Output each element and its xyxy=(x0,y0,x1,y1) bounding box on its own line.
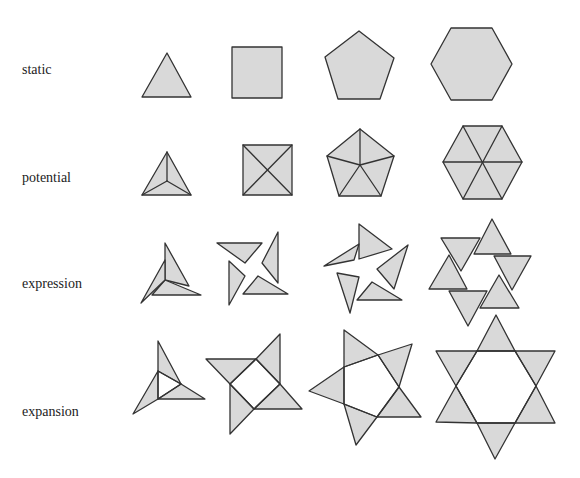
polygon-piece xyxy=(141,260,165,303)
polygon-piece xyxy=(230,384,254,434)
potential-square-shape xyxy=(243,145,292,195)
polygon-piece xyxy=(477,423,515,459)
polygon-piece xyxy=(377,387,421,417)
polygon-piece xyxy=(206,359,256,384)
polygon-piece xyxy=(474,219,511,254)
polygon-piece xyxy=(254,384,302,409)
polygon-piece xyxy=(309,367,344,404)
expression-pentagon-shape xyxy=(324,224,408,313)
polygon-piece xyxy=(256,334,280,384)
polygon-piece xyxy=(133,371,158,414)
expansion-hexagon-shape xyxy=(436,315,555,459)
polygon-piece xyxy=(165,243,189,286)
polygon-piece xyxy=(477,315,515,351)
polygon-piece xyxy=(436,351,477,386)
polygon-piece xyxy=(515,386,555,423)
expression-square-shape xyxy=(217,232,288,305)
polygon-piece xyxy=(232,47,282,98)
polygon-piece xyxy=(217,243,262,263)
row-label-expansion: expansion xyxy=(22,404,79,420)
expansion-pentagon-shape xyxy=(309,330,421,445)
polygon-piece xyxy=(158,384,205,399)
polygon-piece xyxy=(142,53,191,97)
potential-pentagon-shape xyxy=(327,129,394,196)
polygon-piece xyxy=(337,273,359,313)
polygon-piece xyxy=(262,232,278,283)
static-hexagon-shape xyxy=(431,28,512,100)
polygon-piece xyxy=(229,261,245,305)
static-pentagon-shape xyxy=(325,31,394,99)
expansion-triangle-shape xyxy=(133,341,205,414)
row-label-potential: potential xyxy=(22,170,71,186)
row-label-static: static xyxy=(22,62,52,78)
expression-hexagon-shape xyxy=(429,219,531,326)
static-triangle-shape xyxy=(142,53,191,97)
row-label-expression: expression xyxy=(22,276,82,292)
polygon-piece xyxy=(359,224,392,259)
polygon-piece xyxy=(324,244,359,266)
polygon-piece xyxy=(436,386,477,423)
potential-hexagon-shape xyxy=(443,126,522,199)
static-square-shape xyxy=(232,47,282,98)
polygon-piece xyxy=(243,276,288,294)
polygon-piece xyxy=(515,351,555,386)
expansion-square-shape xyxy=(206,334,302,434)
polygon-piece xyxy=(325,31,394,99)
polygon-diagram xyxy=(0,0,580,478)
potential-triangle-shape xyxy=(142,152,191,195)
expression-triangle-shape xyxy=(141,243,201,303)
polygon-piece xyxy=(431,28,512,100)
